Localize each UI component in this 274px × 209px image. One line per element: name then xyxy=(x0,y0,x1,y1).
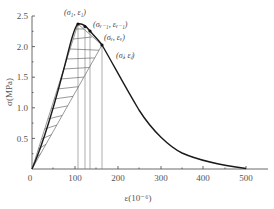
point-v xyxy=(88,29,91,32)
x-axis-title: ε(10⁻⁶) xyxy=(125,193,152,203)
stress-strain-chart: 0 100 200 300 400 500 0.5 1.0 1.5 2.0 2.… xyxy=(0,0,274,209)
annotation-v-1: (σᵥ₋₁, εᵥ₋₁) xyxy=(93,20,128,29)
x-tick-500: 500 xyxy=(239,173,253,183)
point-j xyxy=(100,43,103,46)
vertical-guide-lines xyxy=(78,24,102,169)
x-tick-400: 400 xyxy=(196,173,210,183)
hatched-region xyxy=(32,24,102,169)
y-tick-2.5: 2.5 xyxy=(17,11,29,21)
point-v-1 xyxy=(83,25,86,28)
x-tick-100: 100 xyxy=(68,173,82,183)
x-tick-labels: 0 100 200 300 400 500 xyxy=(28,173,254,183)
y-tick-2.0: 2.0 xyxy=(17,42,29,52)
y-axis-title: σ(MPa) xyxy=(4,78,14,106)
annotation-j: (σⱼ, εⱼ) xyxy=(116,51,135,60)
x-tick-0: 0 xyxy=(28,173,33,183)
y-tick-1.5: 1.5 xyxy=(17,72,29,82)
axes xyxy=(32,16,268,169)
x-tick-200: 200 xyxy=(111,173,125,183)
annotation-peak: (σ₁, ε₁) xyxy=(64,8,86,17)
point-peak xyxy=(76,22,79,25)
y-tick-1.0: 1.0 xyxy=(17,103,29,113)
y-tick-0.5: 0.5 xyxy=(17,134,29,144)
stress-strain-curve xyxy=(32,24,246,169)
x-tick-300: 300 xyxy=(154,173,168,183)
secant-line-j xyxy=(32,45,102,169)
annotation-v: (σᵥ, εᵥ) xyxy=(104,33,125,42)
y-tick-labels: 0.5 1.0 1.5 2.0 2.5 xyxy=(17,11,29,144)
